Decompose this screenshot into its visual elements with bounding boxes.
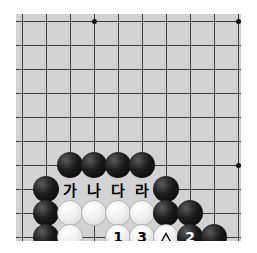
black-stone[interactable] [153, 176, 179, 202]
black-stone[interactable] [57, 152, 83, 178]
black-stone-2[interactable]: 2 [177, 224, 203, 241]
black-stone[interactable] [201, 224, 227, 241]
white-stone-1[interactable]: 1 [105, 224, 131, 241]
black-stone[interactable] [33, 200, 59, 226]
star-point [92, 19, 97, 24]
star-point [236, 19, 241, 24]
move-number-label: 1 [113, 230, 123, 241]
white-stone[interactable] [57, 200, 83, 226]
grid-line-horizontal [16, 21, 241, 22]
black-stone[interactable] [33, 224, 59, 241]
white-stone[interactable] [129, 200, 155, 226]
triangle-marker-icon [160, 232, 172, 242]
black-stone[interactable] [153, 200, 179, 226]
white-stone[interactable] [81, 200, 107, 226]
white-stone[interactable] [105, 200, 131, 226]
black-stone[interactable] [105, 152, 131, 178]
page-root: 가나다라 132 [0, 0, 257, 253]
black-stone[interactable] [129, 152, 155, 178]
point-label-ra: 라 [130, 178, 154, 200]
black-stone[interactable] [177, 200, 203, 226]
grid-line-horizontal [16, 141, 241, 142]
star-point [236, 163, 241, 168]
grid-line-horizontal [16, 93, 241, 94]
white-stone[interactable] [57, 224, 83, 241]
black-stone[interactable] [81, 152, 107, 178]
grid-line-horizontal [16, 117, 241, 118]
grid-line-vertical [238, 14, 239, 241]
move-number-label: 3 [137, 230, 147, 241]
white-stone-triangle[interactable] [153, 224, 179, 241]
grid-line-vertical [214, 14, 215, 241]
point-label-na: 나 [82, 178, 106, 200]
point-label-da: 다 [106, 178, 130, 200]
move-number-label: 2 [185, 230, 195, 241]
grid-line-horizontal [16, 45, 241, 46]
point-label-ga: 가 [58, 178, 82, 200]
white-stone-3[interactable]: 3 [129, 224, 155, 241]
go-board[interactable]: 가나다라 132 [16, 14, 241, 241]
black-stone[interactable] [33, 176, 59, 202]
grid-line-horizontal [16, 69, 241, 70]
grid-line-vertical [22, 14, 23, 241]
